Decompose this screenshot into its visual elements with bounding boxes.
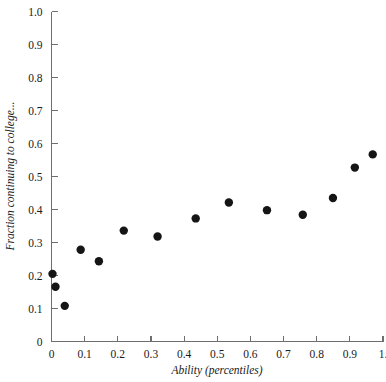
y-tick-label: 0.8 (28, 72, 43, 84)
data-point (120, 226, 128, 234)
data-point (263, 206, 271, 214)
data-point (48, 270, 56, 278)
x-tick-label: 0.2 (111, 348, 126, 360)
x-tick-label: 0.8 (310, 348, 325, 360)
data-point (299, 211, 307, 219)
y-axis-tick-labels: 00.10.20.30.40.50.60.70.80.91.0 (28, 6, 43, 348)
x-tick-label: 0.1 (77, 348, 92, 360)
data-point (329, 194, 337, 202)
y-tick-label: 0.1 (28, 303, 43, 315)
y-axis-title: Fraction continuing to college... (4, 102, 17, 252)
data-point (225, 198, 233, 206)
y-tick-label: 0 (37, 336, 43, 348)
data-point (51, 283, 59, 291)
x-tick-label: 0.7 (276, 348, 291, 360)
x-tick-label: 1. (379, 348, 386, 360)
y-tick-label: 0.4 (28, 204, 43, 216)
x-tick-label: 0.9 (343, 348, 358, 360)
x-axis-tick-labels: 00.10.20.30.40.50.60.70.80.91. (49, 348, 386, 360)
y-tick-label: 0.9 (28, 39, 43, 51)
data-points (48, 150, 377, 310)
x-tick-label: 0.3 (144, 348, 159, 360)
data-point (153, 232, 161, 240)
x-axis-ticks (85, 336, 383, 342)
y-tick-label: 0.7 (28, 105, 43, 117)
data-point (61, 302, 69, 310)
x-axis-title: Ability (percentiles) (170, 364, 262, 377)
scatter-plot-figure: 00.10.20.30.40.50.60.70.80.91.0 00.10.20… (0, 0, 386, 382)
y-tick-label: 0.5 (28, 171, 43, 183)
plot-canvas: 00.10.20.30.40.50.60.70.80.91.0 00.10.20… (0, 0, 386, 382)
data-point (76, 246, 84, 254)
y-axis-ticks (52, 12, 58, 309)
axis-lines (52, 12, 384, 342)
y-tick-label: 0.6 (28, 138, 43, 150)
x-tick-label: 0 (49, 348, 55, 360)
x-tick-label: 0.4 (177, 348, 192, 360)
y-tick-label: 1.0 (28, 6, 43, 18)
y-tick-label: 0.3 (28, 237, 43, 249)
data-point (192, 214, 200, 222)
data-point (95, 257, 103, 265)
x-tick-label: 0.5 (210, 348, 225, 360)
data-point (351, 163, 359, 171)
x-tick-label: 0.6 (243, 348, 258, 360)
data-point (369, 150, 377, 158)
y-tick-label: 0.2 (28, 270, 43, 282)
